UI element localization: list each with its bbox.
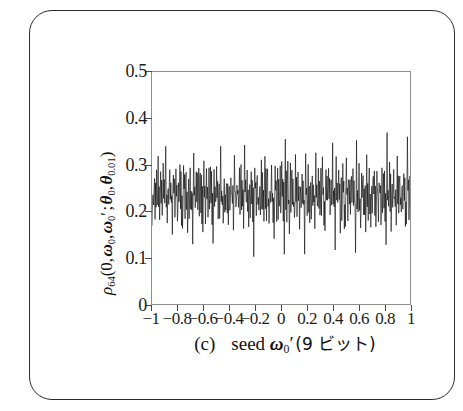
y-axis-tick-label: 0.4 xyxy=(125,109,147,127)
theta-symbol-2: θ xyxy=(97,176,116,185)
x-axis-tick-label: −0.2 xyxy=(241,310,270,329)
ylabel-comma-2: , xyxy=(97,233,116,239)
caption-omega-symbol: ω xyxy=(270,333,284,354)
omega-subscript-1: 0 xyxy=(106,239,117,244)
theta-subscript-1: 0 xyxy=(106,190,117,195)
omega-symbol-1: ω xyxy=(97,244,116,256)
x-axis-tick-labels: −1−0.8−0.6−0.4−0.200.20.40.60.81 xyxy=(151,310,411,332)
x-axis-tick-label: −0.4 xyxy=(215,310,244,329)
omega-prime-mark: ′ xyxy=(97,212,116,216)
theta-subscript-2: 0.01 xyxy=(106,157,117,175)
data-series-line xyxy=(152,133,411,257)
x-axis-tick-label: 0.6 xyxy=(349,310,369,329)
y-axis-tick-label: 0.1 xyxy=(125,249,147,267)
omega-symbol-2: ω xyxy=(97,221,116,233)
y-axis-tick-label: 0.2 xyxy=(125,202,147,220)
caption-bit-count: (9 ビット) xyxy=(295,334,375,354)
x-axis-tick-label: 0.4 xyxy=(323,310,343,329)
ylabel-arg-zero: 0 xyxy=(97,262,116,271)
rho-symbol: ρ xyxy=(97,287,116,295)
caption-seed-word: seed xyxy=(231,333,265,354)
ylabel-semicolon: ; xyxy=(97,204,116,212)
y-axis-tick-label: 0.5 xyxy=(125,62,147,80)
ylabel-comma-1: , xyxy=(97,256,116,262)
x-axis-tick-label: −0.6 xyxy=(189,310,218,329)
y-axis-title: ρ64(0, ω0, ω0′ ; θ0, θ0.01) xyxy=(98,0,117,295)
omega-subscript-2: 0 xyxy=(106,216,117,221)
plot-area xyxy=(151,71,411,305)
ylabel-paren-close: ) xyxy=(97,152,116,158)
theta-symbol-1: θ xyxy=(97,196,116,205)
data-trace-svg xyxy=(152,72,411,305)
figure-caption: (c)seed ω0′ (9 ビット) xyxy=(151,333,419,357)
x-axis-tick-label: −1 xyxy=(142,310,159,329)
x-axis-tick-label: 0 xyxy=(277,310,285,329)
ylabel-paren-open: ( xyxy=(97,271,116,277)
chart-figure: 00.10.20.30.40.5 −1−0.8−0.6−0.4−0.200.20… xyxy=(0,0,463,411)
x-axis-tick-label: −0.8 xyxy=(163,310,192,329)
rho-subscript: 64 xyxy=(106,276,117,287)
x-axis-tick-label: 0.8 xyxy=(375,310,395,329)
panel-label: (c) xyxy=(194,333,215,354)
y-axis-tick-label: 0.3 xyxy=(125,156,147,174)
caption-omega-prime: ′ xyxy=(290,333,294,354)
ylabel-comma-3: , xyxy=(97,185,116,191)
x-axis-tick-label: 0.2 xyxy=(297,310,317,329)
x-axis-tick-label: 1 xyxy=(407,310,415,329)
